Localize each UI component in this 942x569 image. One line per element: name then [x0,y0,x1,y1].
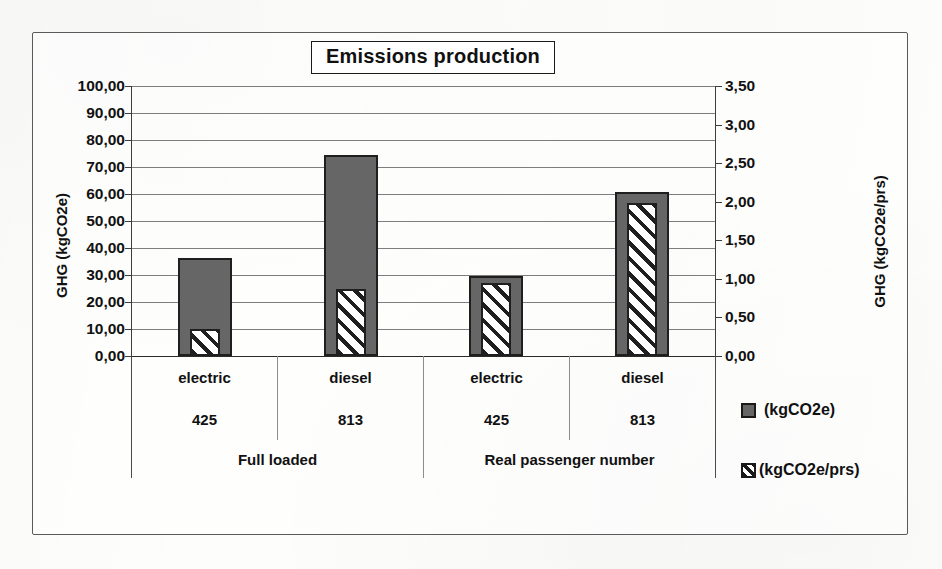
y-axis-right-tickmark [715,202,722,203]
bar-kgco2e-prs [336,289,366,356]
bar-kgco2e-prs [481,283,511,356]
chart-legend: (kgCO2e) (kgCO2e/prs) [741,401,911,521]
y-axis-left-tickmark [125,302,132,303]
y-axis-right-tick-label: 3,50 [725,78,755,94]
y-axis-left-tickmark [125,140,132,141]
bar-group [569,86,715,356]
y-axis-left-tick-label: 100,00 [78,78,125,94]
y-axis-left-tickmark [125,221,132,222]
category-code: 813 [278,398,424,440]
y-axis-right-tickmark [715,279,722,280]
legend-item-kgco2e-prs: (kgCO2e/prs) [741,461,911,479]
y-axis-left-tickmark [125,194,132,195]
y-axis-left-tickmark [125,329,132,330]
y-axis-left-tick-label: 50,00 [86,213,125,229]
bar-kgco2e-prs [627,203,657,356]
y-axis-left-tickmark [125,275,132,276]
category-label: diesel [278,356,424,398]
group-label: Full loaded [132,440,424,478]
bar-group [278,86,424,356]
y-axis-right-tickmark [715,125,722,126]
hatched-swatch-icon [741,463,756,478]
y-axis-right-tick-label: 3,00 [725,117,755,133]
y-axis-left-tick-label: 20,00 [86,294,125,310]
chart-title: Emissions production [326,45,540,68]
category-label: electric [132,356,278,398]
legend-label-kgco2e: (kgCO2e) [764,401,835,419]
y-axis-right-tick-label: 2,50 [725,155,755,171]
solid-gray-swatch-icon [741,403,756,418]
y-axis-right-tickmark [715,240,722,241]
y-axis-left-tickmark [125,113,132,114]
y-axis-right-title: GHG (kgCO2e/prs) [871,162,888,322]
y-axis-right-tick-label: 1,00 [725,271,755,287]
y-axis-left-tick-label: 40,00 [86,240,125,256]
bar-group [132,86,278,356]
chart-frame: Emissions production GHG (kgCO2e) GHG (k… [32,32,908,535]
y-axis-left-tick-label: 30,00 [86,267,125,283]
y-axis-right-tickmark [715,317,722,318]
y-axis-right-tick-label: 1,50 [725,233,755,249]
category-code: 425 [132,398,278,440]
y-axis-left-tick-label: 80,00 [86,132,125,148]
y-axis-left-tick-label: 10,00 [86,321,125,337]
legend-item-kgco2e: (kgCO2e) [741,401,911,419]
category-row-codes: 425813425813 [132,398,715,440]
category-label: diesel [570,356,715,398]
bar-group [424,86,570,356]
y-axis-right-tick-label: 0,00 [725,348,755,364]
y-axis-right-tick-label: 0,50 [725,310,755,326]
y-axis-left-title: GHG (kgCO2e) [53,176,70,316]
y-axis-left-tick-label: 60,00 [86,186,125,202]
y-axis-left-tick-label: 90,00 [86,105,125,121]
y-axis-right-tickmark [715,163,722,164]
y-axis-left-tickmark [125,248,132,249]
category-row-groups: Full loadedReal passenger number [132,440,715,478]
group-label: Real passenger number [424,440,715,478]
y-axis-left-tick-label: 0,00 [95,348,125,364]
chart-title-box: Emissions production [311,41,555,74]
plot-area [131,86,716,356]
y-axis-right-tickmark [715,356,722,357]
category-code: 813 [570,398,715,440]
y-axis-right-tick-label: 2,00 [725,194,755,210]
y-axis-right-tickmark [715,86,722,87]
category-axis: electricdieselelectricdiesel 42581342581… [131,356,716,478]
category-code: 425 [424,398,570,440]
bar-kgco2e-prs [190,329,220,356]
legend-label-kgco2e-prs: (kgCO2e/prs) [759,461,859,479]
category-label: electric [424,356,570,398]
y-axis-left-tick-label: 70,00 [86,159,125,175]
y-axis-left-tickmark [125,167,132,168]
y-axis-left-tickmark [125,86,132,87]
category-row-names: electricdieselelectricdiesel [132,356,715,398]
